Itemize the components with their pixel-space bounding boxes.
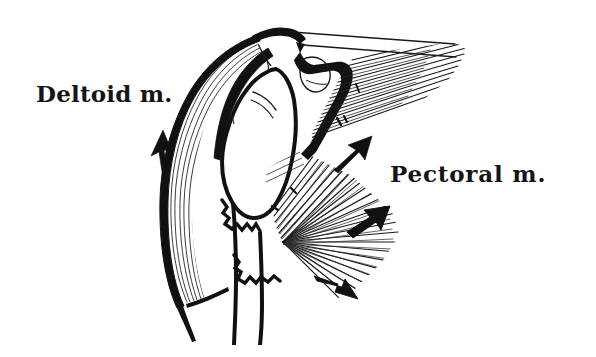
pectoral-label: Pectoral m. — [390, 160, 546, 187]
deltoid-label: Deltoid m. — [36, 80, 172, 107]
anatomy-figure: Deltoid m. Pectoral m. — [0, 0, 596, 357]
